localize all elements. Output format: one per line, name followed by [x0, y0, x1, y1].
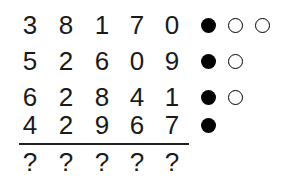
guess-row-1: 3 8 1 7 0 — [0, 8, 283, 42]
digit: 9 — [87, 108, 117, 142]
empty-circle-icon — [228, 54, 243, 69]
answer-row: ? ? ? ? ? — [0, 145, 283, 179]
digit: 2 — [51, 108, 81, 142]
unknown-digit: ? — [87, 145, 117, 179]
empty-circle-icon — [228, 90, 243, 105]
digit: 0 — [122, 44, 152, 78]
guess-row-4: 4 2 9 6 7 — [0, 108, 283, 142]
digit: 4 — [15, 108, 45, 142]
unknown-digit: ? — [51, 145, 81, 179]
digit: 6 — [87, 44, 117, 78]
digit: 5 — [15, 44, 45, 78]
filled-circle-icon — [201, 18, 216, 33]
empty-circle-icon — [255, 18, 270, 33]
unknown-digit: ? — [157, 145, 187, 179]
digit: 7 — [122, 8, 152, 42]
digit: 9 — [157, 44, 187, 78]
filled-circle-icon — [201, 54, 216, 69]
guess-row-2: 5 2 6 0 9 — [0, 44, 283, 78]
empty-circle-icon — [228, 18, 243, 33]
digit: 6 — [122, 108, 152, 142]
unknown-digit: ? — [122, 145, 152, 179]
filled-circle-icon — [201, 90, 216, 105]
digit: 0 — [157, 8, 187, 42]
filled-circle-icon — [201, 118, 216, 133]
digit: 2 — [51, 44, 81, 78]
digit: 1 — [87, 8, 117, 42]
digit: 7 — [157, 108, 187, 142]
digit: 3 — [15, 8, 45, 42]
digit: 8 — [51, 8, 81, 42]
unknown-digit: ? — [15, 145, 45, 179]
